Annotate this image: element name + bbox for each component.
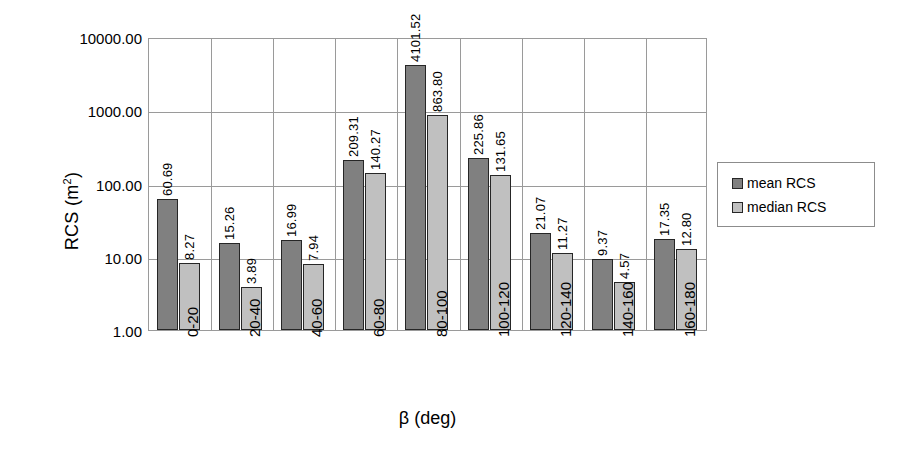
bar-value-label: 60.69: [161, 163, 174, 197]
bar-mean-rcs[interactable]: [281, 240, 302, 330]
bar-group: 60.698.27: [149, 39, 211, 330]
bar-mean-rcs[interactable]: [157, 199, 178, 330]
y-axis-tick-label: 100.00: [42, 178, 142, 193]
legend-item-mean-rcs[interactable]: mean RCS: [732, 171, 874, 195]
bar-value-label: 3.89: [245, 258, 258, 284]
legend: mean RCS median RCS: [717, 162, 875, 227]
bar-mean-rcs[interactable]: [592, 259, 613, 330]
bar-mean-rcs[interactable]: [343, 160, 364, 330]
bar-group: 9.374.57: [584, 39, 646, 330]
bar-group: 15.263.89: [211, 39, 273, 330]
bar-group: 4101.52863.80: [397, 39, 459, 330]
bar-value-label: 131.65: [494, 131, 507, 172]
bar-mean-rcs[interactable]: [468, 158, 489, 330]
y-axis-tick-label: 1.00: [42, 324, 142, 339]
bar-value-label: 863.80: [431, 71, 444, 112]
bar-value-label: 17.35: [658, 203, 671, 237]
bar-value-label: 16.99: [285, 203, 298, 237]
legend-label-median: median RCS: [747, 200, 826, 214]
bar-group: 16.997.94: [273, 39, 335, 330]
bar-value-label: 4.57: [618, 253, 631, 279]
bar-value-label: 7.94: [307, 235, 320, 261]
legend-item-median-rcs[interactable]: median RCS: [732, 195, 874, 219]
y-axis-tick-label: 10.00: [42, 251, 142, 266]
bar-value-label: 4101.52: [409, 14, 422, 62]
y-axis-tick-label: 10000.00: [42, 31, 142, 46]
x-axis-tick-label: 40-60: [309, 299, 324, 337]
bar-value-label: 9.37: [596, 230, 609, 256]
bar-mean-rcs[interactable]: [405, 65, 426, 330]
x-axis-tick-label: 0-20: [185, 307, 200, 337]
bar-value-label: 11.27: [556, 217, 569, 250]
x-axis-tick-label: 80-100: [434, 290, 449, 337]
bar-group: 21.0711.27: [522, 39, 584, 330]
bar-value-label: 225.86: [472, 114, 485, 155]
bar-group: 17.3512.80: [646, 39, 708, 330]
bar-value-label: 140.27: [369, 129, 382, 170]
x-axis-tick-label: 140-160: [620, 282, 635, 337]
y-axis-tick-labels: 10000.001000.00100.0010.001.00: [38, 0, 142, 453]
x-axis-tick-label: 20-40: [247, 299, 262, 337]
bar-value-label: 209.31: [347, 116, 360, 157]
legend-swatch-icon-median: [732, 202, 743, 213]
x-axis-tick-label: 120-140: [558, 282, 573, 337]
y-axis-tick-label: 1000.00: [42, 104, 142, 119]
bar-value-label: 21.07: [534, 197, 547, 231]
x-axis-tick-label: 100-120: [496, 282, 511, 337]
x-axis-tick-label: 60-80: [371, 299, 386, 337]
bar-value-label: 15.26: [223, 207, 236, 241]
x-axis-tick-labels: 0-2020-4040-6060-8080-100100-120120-1401…: [148, 333, 707, 413]
bar-mean-rcs[interactable]: [219, 243, 240, 330]
bar-group: 225.86131.65: [460, 39, 522, 330]
legend-label-mean: mean RCS: [747, 176, 815, 190]
x-axis-title: β (deg): [148, 408, 707, 429]
bar-mean-rcs[interactable]: [530, 233, 551, 330]
bar-group: 209.31140.27: [335, 39, 397, 330]
bar-value-label: 12.80: [680, 212, 693, 246]
legend-swatch-icon-mean: [732, 178, 743, 189]
x-axis-tick-label: 160-180: [682, 282, 697, 337]
rcs-bar-chart: RCS (m2) 10000.001000.00100.0010.001.00 …: [0, 0, 914, 453]
bar-mean-rcs[interactable]: [654, 239, 675, 330]
bar-value-label: 8.27: [183, 234, 196, 260]
